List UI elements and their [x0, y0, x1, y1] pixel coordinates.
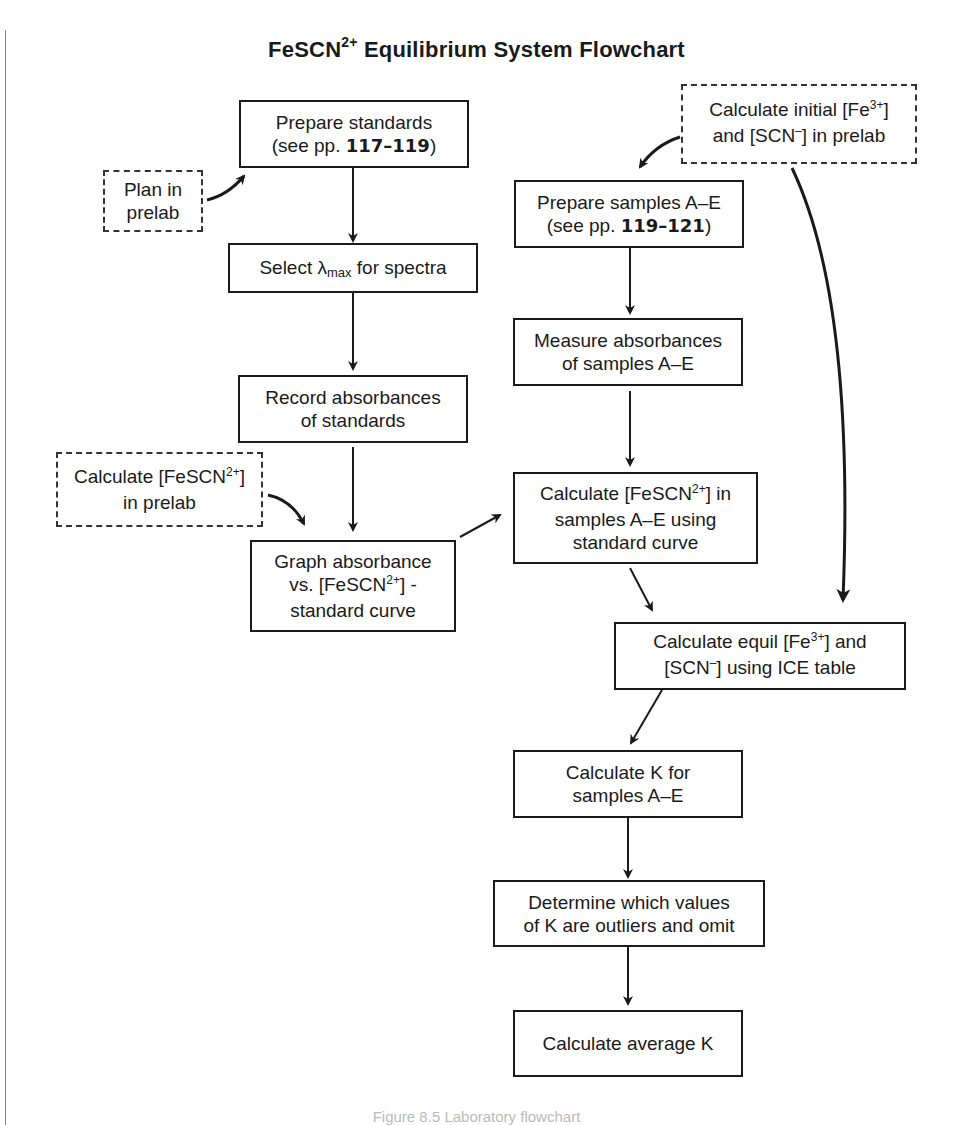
node-prepare-standards: Prepare standards (see pp. 117–119): [239, 100, 469, 168]
node-calc-equil: Calculate equil [Fe3+] and [SCN–] using …: [614, 622, 906, 690]
node-determine-outliers: Determine which values of K are outliers…: [493, 880, 765, 947]
note-plan-in-prelab: Plan in prelab: [103, 170, 203, 232]
connector-arrows: [0, 0, 953, 1125]
node-prepare-samples: Prepare samples A–E (see pp. 119–121): [514, 180, 744, 248]
node-graph-absorbance: Graph absorbance vs. [FeSCN2+] - standar…: [250, 540, 456, 632]
node-measure-absorbances: Measure absorbances of samples A–E: [513, 318, 743, 386]
note-calc-initial: Calculate initial [Fe3+] and [SCN–] in p…: [681, 84, 917, 164]
node-calc-average-k: Calculate average K: [513, 1010, 743, 1077]
node-calc-k: Calculate K for samples A–E: [513, 750, 743, 818]
node-calc-fescn-samples: Calculate [FeSCN2+] in samples A–E using…: [513, 472, 758, 564]
figure-caption: Figure 8.5 Laboratory flowchart: [0, 1108, 953, 1125]
node-select-lambda-max: Select λmax for spectra: [228, 243, 478, 293]
node-record-absorbances: Record absorbances of standards: [238, 375, 468, 443]
note-calc-fescn-prelab: Calculate [FeSCN2+] in prelab: [56, 452, 263, 527]
